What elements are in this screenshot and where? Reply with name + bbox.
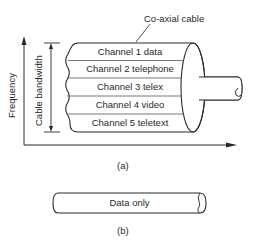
frequency-axis-label: Frequency: [7, 73, 17, 118]
data-only-label: Data only: [53, 198, 206, 208]
channel-2-label: Channel 2 telephone: [72, 64, 188, 74]
channel-4-label: Channel 4 video: [72, 100, 188, 110]
caption-a: (a): [117, 161, 129, 171]
bandwidth-dimension-arrow: [44, 43, 60, 132]
inner-conductor-front: [197, 77, 242, 100]
frequency-axis: [22, 36, 27, 145]
channel-5-label: Channel 5 teletext: [72, 118, 188, 128]
caption-b: (b): [117, 226, 129, 236]
cable-label-leader: [136, 24, 150, 42]
x-axis: [24, 143, 237, 148]
coaxial-cable-label: Co-axial cable: [144, 14, 204, 24]
cable-bandwidth-label: Cable bandwidth: [34, 55, 44, 126]
channel-3-label: Channel 3 telex: [72, 82, 188, 92]
channel-1-label: Channel 1 data: [72, 47, 188, 57]
